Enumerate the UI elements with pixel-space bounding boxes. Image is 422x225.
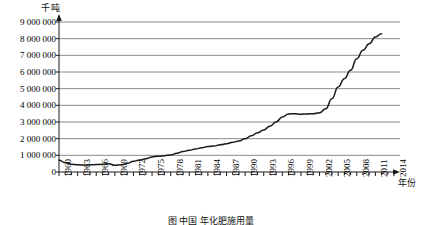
x-tick-label: 1972 [137,159,147,177]
x-tick-label: 2008 [361,159,371,177]
x-tick-label: 1963 [82,159,92,177]
x-axis-tick-labels: 1960196319661969197219751978198119841987… [0,0,422,225]
chart-figure: 千吨 01 000 0002 000 0003 000 0004 000 000… [0,0,422,225]
x-tick-label: 2011 [379,159,389,177]
x-tick-label: 1999 [305,159,315,177]
x-tick-label: 1960 [63,159,73,177]
x-tick-label: 1984 [212,159,222,177]
x-tick-label: 1993 [268,159,278,177]
x-tick-label: 1987 [231,159,241,177]
x-tick-label: 1996 [286,159,296,177]
x-tick-label: 1990 [249,159,259,177]
x-tick-label: 1975 [156,159,166,177]
x-tick-label: 1978 [175,159,185,177]
figure-caption: 图 中国 年化肥施用量 [0,214,422,225]
x-tick-label: 1966 [100,159,110,177]
x-tick-label: 2002 [324,159,334,177]
x-tick-label: 2005 [342,159,352,177]
x-tick-label: 1981 [193,159,203,177]
x-tick-label: 2014 [398,159,408,177]
x-tick-label: 1969 [119,159,129,177]
x-axis-name: 年份 [398,176,416,189]
